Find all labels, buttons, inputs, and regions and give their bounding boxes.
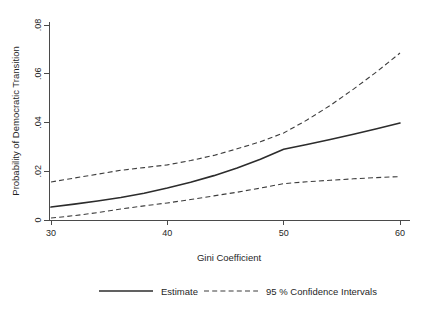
x-axis-ticks: 30405060 xyxy=(46,220,405,238)
x-tick-label: 60 xyxy=(395,228,405,238)
y-tick-label: .04 xyxy=(33,116,43,129)
y-axis-title: Probability of Democratic Transition xyxy=(10,46,21,195)
chart-canvas: 0.02.04.06.08 30405060 Probability of De… xyxy=(0,0,423,313)
x-tick-label: 50 xyxy=(279,228,289,238)
legend-label: Estimate xyxy=(161,286,198,297)
x-tick-label: 30 xyxy=(46,228,56,238)
chart-figure: 0.02.04.06.08 30405060 Probability of De… xyxy=(0,0,423,313)
legend-label: 95 % Confidence Intervals xyxy=(266,286,377,297)
axes xyxy=(49,22,410,220)
x-tick-label: 40 xyxy=(162,228,172,238)
y-tick-label: .06 xyxy=(33,67,43,80)
y-tick-label: .08 xyxy=(33,19,43,32)
y-tick-label: 0 xyxy=(33,217,43,222)
x-axis-title: Gini Coefficient xyxy=(197,252,262,263)
y-tick-label: .02 xyxy=(33,165,43,178)
y-axis-ticks: 0.02.04.06.08 xyxy=(33,19,49,223)
series-line-confidence xyxy=(51,53,400,182)
series-line-confidence xyxy=(51,177,400,218)
chart-legend: Estimate95 % Confidence Intervals xyxy=(99,286,377,297)
data-series-group xyxy=(51,53,400,218)
